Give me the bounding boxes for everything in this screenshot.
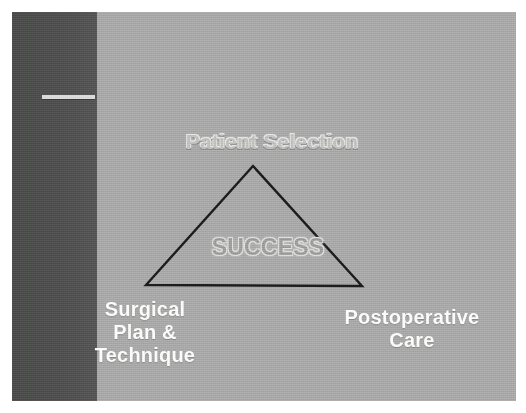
triangle-label-patient-selection: Patient Selection [112,130,432,154]
triangle-label-success: SUCCESS [128,234,408,261]
triangle-label-surgical-plan-technique: Surgical Plan & Technique [60,298,230,368]
triangle-label-postoperative-care: Postoperative Care [312,306,512,352]
figure-page: Patient Selection SUCCESS Surgical Plan … [0,0,526,413]
presentation-slide: Patient Selection SUCCESS Surgical Plan … [12,12,516,401]
triangle-outline [146,166,362,286]
